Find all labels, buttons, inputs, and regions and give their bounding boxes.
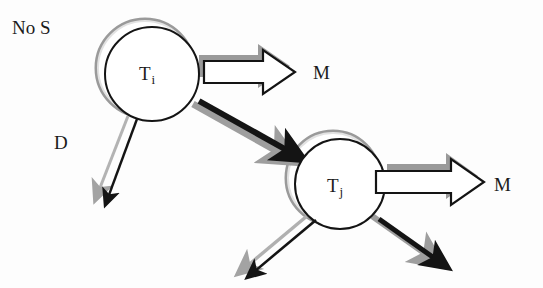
node-ti-label-subscript: i: [152, 72, 156, 87]
node-ti-label: Ti: [139, 63, 154, 85]
label-no-s: No S: [12, 18, 51, 37]
edge-tj-out-right: [379, 219, 444, 265]
label-decay-d: D: [54, 133, 68, 152]
diagram-vector-layer: [0, 0, 543, 288]
node-ti-label-base: T: [139, 63, 151, 84]
edge-tj-out-left-shadow: [240, 216, 307, 272]
edge-ti-to-tj: [199, 101, 299, 157]
edge-tj-out-left: [249, 220, 316, 276]
node-tj-label-subscript: j: [340, 184, 344, 199]
edge-ti-to-tj-shadow: [193, 104, 291, 159]
label-migration-m-2: M: [494, 175, 511, 194]
label-migration-m-1: M: [313, 63, 330, 82]
node-tj-label-base: T: [327, 175, 339, 196]
diagram-canvas: No S D M M Ti Tj: [0, 0, 543, 288]
node-tj-label: Tj: [327, 175, 342, 197]
